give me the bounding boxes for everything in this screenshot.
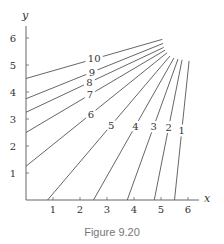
y-tick-label: 2	[10, 141, 16, 152]
contour-label: 10	[88, 53, 101, 64]
x-tick-label: 3	[104, 204, 110, 215]
y-axis-label: y	[21, 9, 29, 22]
x-tick-label: 1	[50, 204, 56, 215]
contour-line-1: 1	[175, 61, 190, 200]
y-tick-label: 1	[10, 168, 16, 179]
contour-label: 2	[166, 122, 172, 133]
contour-label: 4	[132, 121, 138, 132]
contour-diagram: x y 123456 123456 10987654321	[0, 0, 224, 226]
figure-caption: Figure 9.20	[0, 226, 224, 238]
contour-line-9: 9	[26, 43, 163, 98]
contour-label: 5	[108, 120, 114, 131]
x-axis-label: x	[204, 192, 211, 205]
y-tick-label: 3	[10, 114, 16, 125]
contour-label: 7	[87, 89, 93, 100]
y-tick-label: 6	[10, 33, 16, 44]
contour-label: 3	[150, 121, 156, 132]
x-tick-label: 5	[158, 204, 164, 215]
contour-label: 6	[88, 109, 94, 120]
contour-label: 1	[179, 125, 185, 136]
contour-lines: 10987654321	[26, 39, 189, 200]
y-tick-label: 5	[10, 60, 16, 71]
x-tick-label: 2	[77, 204, 83, 215]
x-tick-label: 4	[131, 204, 137, 215]
y-tick-label: 4	[10, 87, 16, 98]
x-tick-label: 6	[185, 204, 191, 215]
contour-label: 8	[86, 77, 92, 88]
